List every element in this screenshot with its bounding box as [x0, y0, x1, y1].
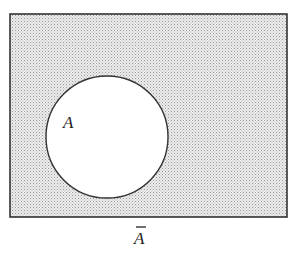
venn-diagram: A A	[0, 0, 291, 253]
set-a-circle	[46, 76, 168, 198]
set-a-label: A	[62, 113, 74, 132]
complement-label: A	[133, 229, 145, 248]
